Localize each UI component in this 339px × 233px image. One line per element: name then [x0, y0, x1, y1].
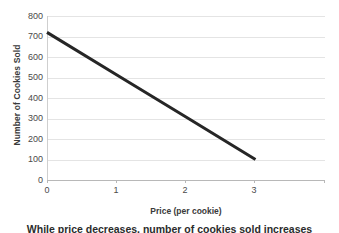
chart-screenshot: Number of Cookies Sold 800 700 600 500 4… [0, 0, 339, 233]
clipped-caption-text: While price decreases, number of cookies… [0, 224, 339, 233]
x-axis-title: Price (per cookie) [47, 206, 325, 216]
data-series-demand [0, 0, 339, 233]
demand-line-path [47, 32, 256, 159]
line-chart-figure: Number of Cookies Sold 800 700 600 500 4… [0, 0, 339, 233]
